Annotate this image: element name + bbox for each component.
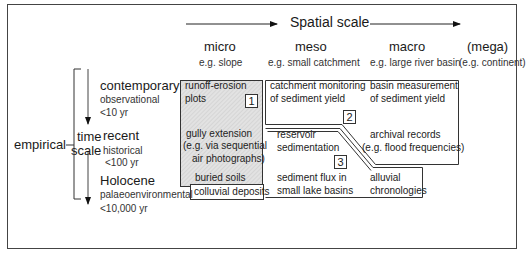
z1-item: air photographs) bbox=[192, 153, 265, 166]
column-mega: (mega) bbox=[467, 40, 508, 53]
z2-item: of sediment yield bbox=[270, 93, 345, 106]
row-recent-range: <100 yr bbox=[105, 158, 139, 168]
row-holocene: Holocene bbox=[100, 174, 155, 187]
row-contemporary-range: <10 yr bbox=[100, 108, 128, 118]
z2-item: of sediment yield bbox=[370, 93, 445, 106]
z1-item: runoff-erosion bbox=[185, 80, 247, 93]
z1-item: buried soils bbox=[195, 172, 246, 185]
row-contemporary: contemporary bbox=[100, 79, 179, 92]
row-holocene-range: <10,000 yr bbox=[100, 204, 148, 214]
z1-item: colluvial deposits bbox=[194, 186, 270, 199]
column-mega-example: (e.g. continent) bbox=[459, 58, 526, 68]
z1-item: plots bbox=[185, 93, 206, 106]
z2-item: archival records bbox=[370, 129, 441, 142]
z2-item: catchment monitoring bbox=[270, 80, 366, 93]
column-macro-example: e.g. large river basin bbox=[370, 58, 461, 68]
row-recent: recent bbox=[103, 129, 139, 142]
zone-3-number: 3 bbox=[334, 155, 347, 169]
empirical-label: empirical bbox=[14, 138, 66, 151]
row-recent-type: historical bbox=[103, 146, 142, 156]
spatial-scale-title: Spatial scale bbox=[290, 15, 369, 29]
column-macro: macro bbox=[389, 40, 425, 53]
z3-item: chronologies bbox=[370, 185, 427, 198]
column-micro: micro bbox=[204, 40, 236, 53]
z3-item: sediment flux in bbox=[277, 172, 346, 185]
row-contemporary-type: observational bbox=[100, 95, 159, 105]
column-meso: meso bbox=[295, 40, 327, 53]
z3-item: small lake basins bbox=[277, 185, 353, 198]
zone-1-number: 1 bbox=[245, 94, 258, 108]
z1-item: gully extension bbox=[186, 128, 252, 141]
scale-label: scale bbox=[71, 144, 101, 157]
column-micro-example: e.g. slope bbox=[199, 58, 242, 68]
z1-item: (e.g. via sequential bbox=[183, 140, 267, 153]
time-label: time bbox=[77, 130, 102, 143]
zone-2-number: 2 bbox=[343, 110, 356, 124]
z3-item: sedimentation bbox=[277, 142, 339, 155]
z2-item: (e.g. flood frequencies) bbox=[362, 142, 464, 155]
row-holocene-type: palaeoenvironmental bbox=[100, 190, 193, 200]
z3-item: alluvial bbox=[370, 172, 401, 185]
z3-item: reservoir bbox=[277, 129, 316, 142]
column-meso-example: e.g. small catchment bbox=[268, 58, 360, 68]
z2-item: basin measurement bbox=[370, 80, 458, 93]
